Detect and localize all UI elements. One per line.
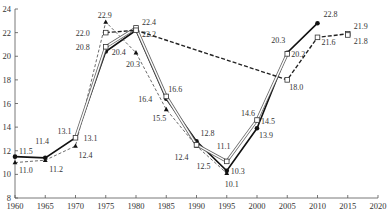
y-tick-label: 22 xyxy=(3,28,12,38)
data-label: 11.0 xyxy=(19,166,33,175)
x-tick-label: 2010 xyxy=(309,201,326,211)
data-label: 22.2 xyxy=(142,30,156,39)
square-marker-icon xyxy=(164,94,169,99)
y-tick-label: 20 xyxy=(3,51,12,61)
series-dashed-triangle-line xyxy=(15,22,227,173)
x-tick-label: 2015 xyxy=(339,201,356,211)
data-label: 16.6 xyxy=(168,85,182,94)
y-tick-label: 8 xyxy=(7,193,11,203)
line-chart: 1960196519701975198019851990199520002005… xyxy=(0,0,390,219)
data-label: 22.8 xyxy=(324,10,338,19)
data-label: 22.0 xyxy=(76,29,90,38)
y-tick-label: 14 xyxy=(3,122,12,132)
y-tick-label: 24 xyxy=(3,4,12,14)
square-marker-icon xyxy=(285,52,290,57)
y-tick-label: 18 xyxy=(3,75,12,85)
square-marker-icon xyxy=(194,143,199,148)
data-label: 10.1 xyxy=(225,180,239,189)
data-label: 12.4 xyxy=(79,151,93,160)
data-label: 13.1 xyxy=(58,127,72,136)
square-marker-icon xyxy=(103,45,108,50)
data-label: 21.8 xyxy=(354,37,368,46)
x-tick-label: 1970 xyxy=(67,201,84,211)
y-tick-label: 10 xyxy=(3,169,12,179)
data-label: 11.2 xyxy=(49,165,63,174)
circle-marker-icon xyxy=(315,21,320,26)
x-tick-label: 1985 xyxy=(158,201,175,211)
triangle-marker-icon xyxy=(103,19,108,23)
triangle-marker-icon xyxy=(73,143,78,147)
circle-marker-icon xyxy=(13,154,18,159)
square-marker-icon xyxy=(134,28,139,33)
x-tick-label: 2000 xyxy=(249,201,266,211)
square-marker-icon xyxy=(224,159,229,164)
data-label: 12.5 xyxy=(197,162,211,171)
square-marker-icon xyxy=(315,35,320,40)
x-tick-label: 1990 xyxy=(188,201,205,211)
x-tick-label: 1995 xyxy=(218,201,235,211)
square-marker-icon xyxy=(255,118,260,123)
data-label: 13.1 xyxy=(84,134,98,143)
data-label: 22.4 xyxy=(142,18,156,27)
data-label: 10.3 xyxy=(231,167,245,176)
y-tick-label: 12 xyxy=(3,146,12,156)
data-label: 13.9 xyxy=(259,131,273,140)
axes: 1960196519701975198019851990199520002005… xyxy=(3,4,387,211)
data-label: 18.0 xyxy=(289,83,303,92)
data-label: 20.3 xyxy=(271,36,285,45)
square-marker-icon xyxy=(345,33,350,38)
data-label: 14.5 xyxy=(261,117,275,126)
data-label: 21.6 xyxy=(322,38,336,47)
x-tick-label: 2005 xyxy=(279,201,296,211)
data-label: 20.8 xyxy=(76,43,90,52)
x-tick-label: 2020 xyxy=(370,201,387,211)
x-tick-label: 1980 xyxy=(128,201,145,211)
data-label: 12.8 xyxy=(201,129,215,138)
data-label: 22.9 xyxy=(98,11,112,20)
circle-marker-icon xyxy=(255,126,260,131)
data-label: 11.5 xyxy=(19,147,33,156)
data-label: 21.9 xyxy=(354,22,368,31)
data-label: 11.1 xyxy=(217,142,231,151)
x-tick-label: 1965 xyxy=(37,201,54,211)
data-label: 16.4 xyxy=(138,95,152,104)
square-marker-icon xyxy=(285,78,290,83)
y-tick-label: 16 xyxy=(3,99,12,109)
data-label: 14.6 xyxy=(241,109,255,118)
series-layer xyxy=(13,19,350,175)
triangle-marker-icon xyxy=(164,107,169,111)
data-label: 20.4 xyxy=(112,48,126,57)
data-label: 12.4 xyxy=(175,153,189,162)
data-label: 11.4 xyxy=(35,137,49,146)
data-label: 20.2 xyxy=(291,50,305,59)
x-tick-label: 1975 xyxy=(97,201,114,211)
square-marker-icon xyxy=(103,30,108,35)
data-label: 20.3 xyxy=(126,60,140,69)
data-label: 15.5 xyxy=(152,114,166,123)
square-marker-icon xyxy=(73,135,78,140)
